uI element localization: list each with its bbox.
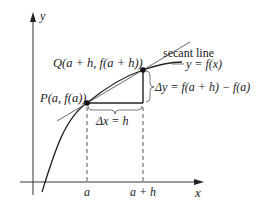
y-axis-label: y bbox=[40, 10, 45, 22]
delta-y-label: Δy = f(a + h) − f(a) bbox=[155, 81, 250, 93]
x-axis-label: x bbox=[195, 186, 201, 199]
delta-y-brace bbox=[146, 71, 154, 102]
tick-a-plus-h-label: a + h bbox=[130, 186, 156, 198]
delta-x-label: Δx = h bbox=[96, 115, 128, 127]
point-P-label: P(a, f(a)) bbox=[40, 92, 87, 105]
secant-line-diagram: y x Q(a + h, f(a + h)) P(a, f(a)) secant… bbox=[0, 0, 276, 207]
tick-a-label: a bbox=[84, 186, 90, 198]
delta-x-brace bbox=[88, 106, 142, 114]
point-Q-label: Q(a + h, f(a + h)) bbox=[53, 57, 143, 70]
y-axis-arrow-icon bbox=[30, 12, 36, 22]
curve-label: y = f(x) bbox=[186, 58, 222, 70]
